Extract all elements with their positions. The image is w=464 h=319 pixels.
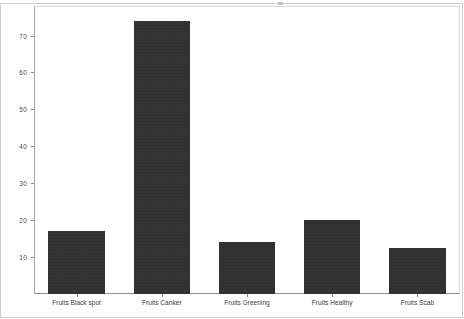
bar-slot (219, 6, 275, 294)
y-axis-tick-label: 20 (0, 217, 27, 224)
x-axis-tick-mark (247, 294, 248, 297)
bar-slot (389, 6, 445, 294)
bar[interactable] (219, 242, 275, 294)
bar-slot (134, 6, 190, 294)
x-axis-tick-label: Fruits Canker (142, 299, 182, 307)
x-axis-tick-mark (417, 294, 418, 297)
y-axis-tick-label: 60 (0, 69, 27, 76)
bar[interactable] (304, 220, 360, 294)
x-axis-tick-mark (77, 294, 78, 297)
bar[interactable] (134, 21, 190, 294)
x-axis-tick-mark (332, 294, 333, 297)
bar-slot (304, 6, 360, 294)
bar[interactable] (48, 231, 104, 294)
y-axis-tick-label: 50 (0, 106, 27, 113)
y-axis-tick-label: 40 (0, 143, 27, 150)
x-axis-tick-label: Fruits Healthy (312, 299, 353, 307)
y-axis-tick-label: 70 (0, 32, 27, 39)
scan-artifact-mark (278, 2, 283, 5)
x-axis-tick-label: Fruits Scab (401, 299, 434, 307)
y-axis-tick-label: 30 (0, 180, 27, 187)
x-axis-tick-label: Fruits Black spot (52, 299, 101, 307)
bar-slot (48, 6, 104, 294)
bar[interactable] (389, 248, 445, 294)
y-axis-tick-label: 10 (0, 254, 27, 261)
x-axis-tick-label: Fruits Greening (224, 299, 269, 307)
bar-chart-figure: 10203040506070 Fruits Black spotFruits C… (0, 0, 464, 319)
bar-series (34, 6, 460, 294)
x-axis-tick-mark (162, 294, 163, 297)
